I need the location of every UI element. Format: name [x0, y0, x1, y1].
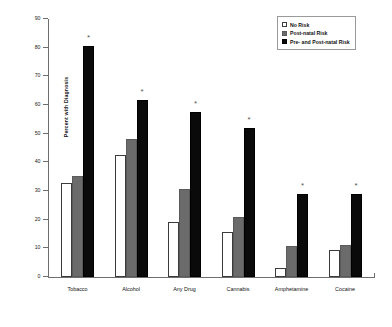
- y-tick-label: 90: [35, 14, 41, 22]
- y-tick: 0: [43, 276, 48, 277]
- y-tick-label: 80: [35, 43, 41, 51]
- x-axis-label: Any Drug: [173, 285, 195, 293]
- legend-label: Pre- and Post-natal Risk: [290, 38, 350, 46]
- legend-swatch-postnatal: [282, 31, 287, 36]
- bar-group: *Tobacco: [61, 19, 94, 277]
- y-tick-label: 40: [35, 157, 41, 165]
- significance-asterisk: *: [87, 34, 90, 42]
- legend-item: Pre- and Post-natal Risk: [282, 38, 350, 46]
- bar: *: [190, 112, 201, 277]
- y-tick: 60: [43, 104, 48, 105]
- bar: *: [83, 46, 94, 277]
- y-tick-label: 50: [35, 129, 41, 137]
- bar: [179, 189, 190, 277]
- y-tick: 40: [43, 161, 48, 162]
- bar-group: *Alcohol: [115, 19, 148, 277]
- bar: [115, 155, 126, 277]
- y-tick-label: 10: [35, 243, 41, 251]
- bar-group: *Cannabis: [222, 19, 255, 277]
- bar: *: [137, 100, 148, 277]
- x-axis-label: Cocaine: [335, 285, 355, 293]
- significance-asterisk: *: [354, 182, 357, 190]
- bar: [61, 183, 72, 277]
- bar-group: *Cocaine: [329, 19, 362, 277]
- bar: [233, 217, 244, 277]
- plot-area: 0102030405060708090 *Tobacco*Alcohol*Any…: [48, 19, 375, 278]
- significance-asterisk: *: [301, 182, 304, 190]
- y-tick: 90: [43, 18, 48, 19]
- y-axis-line: [48, 19, 49, 278]
- legend-swatch-norisk: [282, 22, 287, 27]
- y-tick-label: 70: [35, 71, 41, 79]
- bar-group: *Amphetamine: [275, 19, 308, 277]
- bar: [72, 176, 83, 277]
- y-tick-label: 60: [35, 100, 41, 108]
- y-tick: 50: [43, 133, 48, 134]
- bar: [286, 246, 297, 277]
- x-axis-line: [48, 277, 375, 278]
- y-tick: 70: [43, 75, 48, 76]
- bar: [126, 139, 137, 277]
- legend-item: No Risk: [282, 21, 350, 29]
- bar: [340, 245, 351, 277]
- bar: *: [244, 128, 255, 277]
- bar: *: [351, 194, 362, 277]
- y-tick-label: 20: [35, 215, 41, 223]
- significance-asterisk: *: [247, 116, 250, 124]
- bar: [275, 268, 286, 277]
- legend: No RiskPost-natal RiskPre- and Post-nata…: [277, 16, 356, 50]
- significance-asterisk: *: [194, 100, 197, 108]
- x-axis-label: Cannabis: [227, 285, 250, 293]
- bar: [222, 232, 233, 277]
- x-axis-right-cap: [374, 273, 375, 278]
- bar-chart: Percent with Diagnosis 01020304050607080…: [0, 0, 392, 327]
- bar: [168, 222, 179, 277]
- bar: [329, 250, 340, 277]
- y-tick-label: 30: [35, 186, 41, 194]
- y-tick: 80: [43, 47, 48, 48]
- x-axis-label: Tobacco: [67, 285, 87, 293]
- legend-label: Post-natal Risk: [290, 29, 327, 37]
- y-tick: 10: [43, 247, 48, 248]
- bar: *: [297, 194, 308, 277]
- x-axis-label: Amphetamine: [275, 285, 308, 293]
- bar-group: *Any Drug: [168, 19, 201, 277]
- legend-swatch-prepost: [282, 39, 287, 44]
- legend-item: Post-natal Risk: [282, 29, 350, 37]
- y-tick: 30: [43, 190, 48, 191]
- x-axis-label: Alcohol: [122, 285, 140, 293]
- significance-asterisk: *: [140, 88, 143, 96]
- legend-label: No Risk: [290, 21, 309, 29]
- y-tick-label: 0: [38, 272, 41, 280]
- y-tick: 20: [43, 219, 48, 220]
